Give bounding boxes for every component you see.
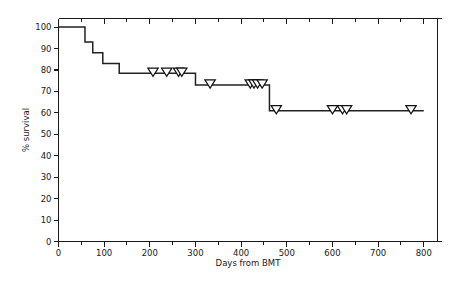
- x-tick-label-600: 600: [324, 248, 340, 258]
- y-tick-label-0: 0: [46, 237, 51, 247]
- y-tick-label-50: 50: [41, 129, 52, 139]
- x-tick-label-700: 700: [370, 248, 386, 258]
- kaplan-meier-plot: 0100200300400500600700800010203040506070…: [0, 0, 464, 291]
- survival-chart-figure: 0100200300400500600700800010203040506070…: [0, 0, 464, 291]
- censor-mark-9: [271, 106, 281, 114]
- y-tick-label-10: 10: [41, 215, 52, 225]
- x-tick-label-300: 300: [187, 248, 203, 258]
- censor-mark-4: [205, 80, 215, 88]
- y-tick-label-70: 70: [41, 86, 52, 96]
- y-tick-label-90: 90: [41, 44, 52, 54]
- x-tick-label-500: 500: [279, 248, 295, 258]
- x-tick-label-800: 800: [416, 248, 432, 258]
- axis-frame-left-bottom: [59, 19, 438, 242]
- y-tick-label-20: 20: [41, 194, 52, 204]
- censor-mark-10: [327, 106, 337, 114]
- y-tick-label-30: 30: [41, 172, 52, 182]
- survival-step-curve: [59, 27, 424, 111]
- y-tick-label-40: 40: [41, 151, 52, 161]
- censor-mark-1: [162, 68, 172, 76]
- y-tick-label-60: 60: [41, 108, 52, 118]
- y-tick-label-80: 80: [41, 65, 52, 75]
- x-tick-label-200: 200: [142, 248, 158, 258]
- axis-frame-top-right: [59, 19, 438, 242]
- y-axis-title: % survival: [21, 108, 31, 152]
- y-tick-label-100: 100: [35, 22, 51, 32]
- x-tick-label-100: 100: [96, 248, 112, 258]
- x-axis-title: Days from BMT: [216, 258, 282, 268]
- censor-mark-0: [148, 68, 158, 76]
- x-tick-label-0: 0: [56, 248, 61, 258]
- censor-mark-13: [406, 106, 416, 114]
